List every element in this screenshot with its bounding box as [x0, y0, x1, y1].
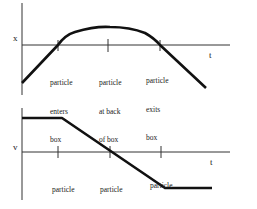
- top-y-axis-label: x: [13, 33, 18, 43]
- bottom-marker-exits-label: particle exits box: [150, 162, 177, 209]
- top-marker-enters-label: particle enters box: [50, 59, 73, 154]
- bottom-x-axis-label: t: [210, 157, 213, 167]
- bottom-marker-back-label: particle at back of box: [100, 166, 123, 209]
- top-x-axis-label: t: [209, 50, 212, 60]
- diagram-canvas: [0, 0, 257, 209]
- bottom-y-axis-label: v: [13, 142, 18, 152]
- top-marker-exits-label: particle exits box: [146, 57, 169, 152]
- top-marker-back-label: particle at back of box: [99, 59, 122, 154]
- bottom-marker-enters-label: particle enters box: [52, 166, 75, 209]
